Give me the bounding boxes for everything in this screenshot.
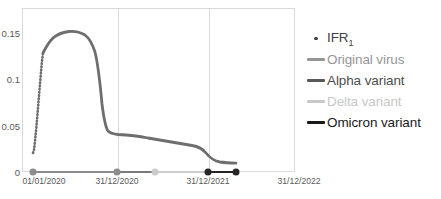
x-tick-31-12-2022: 31/12/2022 <box>277 176 320 186</box>
dot-marker-icon <box>305 37 327 41</box>
legend-label-delta-variant: Delta variant <box>327 94 402 109</box>
legend-item-delta-variant[interactable]: Delta variant <box>305 91 437 112</box>
timeline-segment-delta-variant <box>155 171 208 173</box>
timeline-dot-omicron-variant-start <box>205 169 212 176</box>
gridline-31-12-2020 <box>118 9 119 171</box>
line-marker-icon <box>305 100 327 103</box>
line-marker-icon <box>305 79 327 82</box>
y-tick-0.05: 0.05 <box>2 121 21 132</box>
x-tick-31-12-2020: 31/12/2020 <box>95 176 138 186</box>
legend: IFR1 Original virus Alpha variant Delta … <box>305 28 437 133</box>
chart-root: 0 0.05 0.1 0.15 01/01/2020 31/12/2020 31… <box>0 0 441 199</box>
y-axis-labels: 0 0.05 0.1 0.15 <box>0 0 20 199</box>
timeline-dot-original-virus-start <box>30 169 37 176</box>
y-tick-0.15: 0.15 <box>2 28 21 39</box>
legend-item-omicron-variant[interactable]: Omicron variant <box>305 112 437 133</box>
legend-label-alpha-variant: Alpha variant <box>327 73 405 88</box>
y-tick-0: 0 <box>15 167 20 178</box>
timeline-dot-omicron-variant-end <box>233 169 240 176</box>
x-tick-01-01-2020: 01/01/2020 <box>22 176 65 186</box>
gridline-31-12-2021 <box>209 9 210 171</box>
plot-area <box>22 8 295 172</box>
legend-item-original-virus[interactable]: Original virus <box>305 49 437 70</box>
timeline-dot-alpha-variant-start <box>114 169 121 176</box>
legend-label-omicron-variant: Omicron variant <box>327 115 421 130</box>
legend-label-original-virus: Original virus <box>327 52 404 67</box>
timeline-segment-alpha-variant <box>117 171 155 173</box>
line-marker-icon <box>305 58 327 61</box>
timeline-segment-original-virus <box>33 171 117 173</box>
x-tick-31-12-2021: 31/12/2021 <box>186 176 229 186</box>
timeline-dot-delta-variant-start <box>152 169 159 176</box>
y-tick-0.1: 0.1 <box>7 74 20 85</box>
legend-label-ifr1: IFR1 <box>327 30 353 48</box>
line-marker-icon <box>305 121 327 124</box>
legend-item-ifr1[interactable]: IFR1 <box>305 28 437 49</box>
legend-item-alpha-variant[interactable]: Alpha variant <box>305 70 437 91</box>
